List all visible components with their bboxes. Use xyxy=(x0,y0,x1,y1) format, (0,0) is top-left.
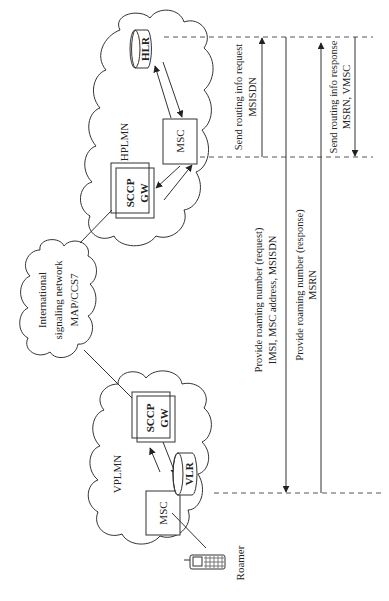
message-provide-roaming-number-response: Provide roaming number (response) MSRN xyxy=(294,43,321,493)
hplmn-msc-label: MSC xyxy=(174,129,186,152)
hplmn-gw-label-2: GW xyxy=(138,183,150,203)
hplmn-label: HPLMN xyxy=(118,123,130,162)
message-2-line1: Provide roaming number (request) xyxy=(253,227,265,372)
hplmn-msc: MSC xyxy=(163,119,197,164)
message-4-line2: MSRN, VMSC xyxy=(341,65,352,130)
vplmn-network: VPLMN SCCP GW MSC VLR xyxy=(88,371,211,548)
vplmn-msc-label: MSC xyxy=(157,501,169,524)
hlr-label: HLR xyxy=(139,36,151,61)
roamer-phone: Roamer xyxy=(184,545,246,580)
message-send-routing-info-request: Send routing info request MSISDN xyxy=(233,38,262,157)
hplmn-network: HPLMN HLR MSC SCCP GW xyxy=(80,10,213,246)
message-send-routing-info-response: Send routing info response MSRN, VMSC xyxy=(328,37,355,156)
hplmn-gw-label-1: SCCP xyxy=(124,178,136,207)
roamer-label: Roamer xyxy=(234,545,246,580)
vlr-database: VLR xyxy=(173,453,197,495)
message-3-line2: MSRN xyxy=(307,270,318,300)
international-label-3: MAP/CCS7 xyxy=(68,273,80,327)
vplmn-gw-label-1: SCCP xyxy=(144,403,156,432)
mobile-phone-icon xyxy=(184,555,225,569)
international-label-1: International xyxy=(36,272,48,328)
roaming-signaling-diagram: HPLMN HLR MSC SCCP GW International xyxy=(0,0,389,601)
vplmn-gw-label-2: GW xyxy=(158,408,170,428)
message-2-line2: IMSI, MSC address, MSISDN xyxy=(267,235,278,364)
message-1-line2: MSISDN xyxy=(247,77,258,117)
hplmn-sccp-gateway: SCCP GW xyxy=(111,163,154,218)
international-signaling-network: International signaling network MAP/CCS7 xyxy=(20,210,134,400)
international-label-2: signaling network xyxy=(52,260,64,340)
message-3-line1: Provide roaming number (response) xyxy=(294,209,306,361)
vlr-label: VLR xyxy=(183,461,195,485)
vplmn-msc: MSC xyxy=(146,491,180,535)
vplmn-label: VPLMN xyxy=(111,455,123,494)
message-1-line1: Send routing info request xyxy=(233,44,244,151)
message-4-line1: Send routing info response xyxy=(328,40,339,153)
vplmn-sccp-gateway: SCCP GW xyxy=(132,392,175,442)
hlr-database: HLR xyxy=(130,30,151,68)
